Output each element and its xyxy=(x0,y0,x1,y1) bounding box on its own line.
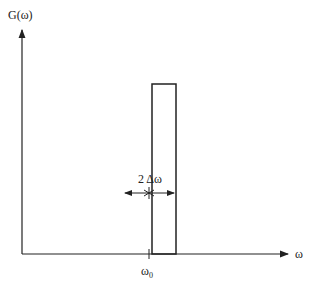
diagram-canvas xyxy=(0,0,319,293)
width-label: 2 Δω xyxy=(138,172,162,187)
center-label: ω0 xyxy=(141,264,153,280)
y-axis-label: G(ω) xyxy=(8,8,33,23)
center-label-subscript: 0 xyxy=(149,271,153,280)
x-axis-label: ω xyxy=(295,247,303,262)
spectrum-rectangle xyxy=(152,84,176,254)
center-label-omega: ω xyxy=(141,264,149,278)
